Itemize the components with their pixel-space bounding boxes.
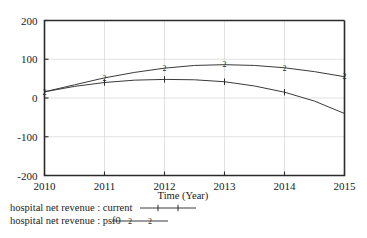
x-tick-label-0: 2010 (34, 180, 57, 192)
data-point-marker: 2 (103, 74, 107, 83)
y-tick-label-1: 100 (21, 53, 38, 65)
data-point-marker: 2 (43, 88, 47, 97)
legend-label-1: hospital net revenue : current (10, 202, 133, 213)
data-point-marker: 2 (163, 64, 167, 73)
x-axis-title: Time (Year) (158, 190, 209, 202)
x-tick-label-1: 2011 (94, 180, 116, 192)
legend-label-2: hospital net revenue : psf0 (10, 215, 121, 226)
chart-container: 2001000-100-200 201020112012201320142015… (0, 0, 367, 238)
x-tick-label-3: 2013 (214, 180, 237, 192)
x-tick-label-4: 2014 (274, 180, 297, 192)
y-tick-label-0: 200 (21, 15, 38, 27)
data-point-marker: 2 (223, 60, 227, 69)
y-tick-label-2: 0 (32, 92, 38, 104)
data-point-marker: 2 (343, 72, 347, 81)
x-tick-label-5: 2015 (334, 180, 357, 192)
legend-marker-2: 2 (128, 217, 132, 226)
y-tick-label-3: -100 (17, 131, 38, 143)
legend-marker-2: 2 (148, 217, 152, 226)
data-point-marker: 2 (283, 64, 287, 73)
chart-svg: 2001000-100-200 201020112012201320142015… (0, 0, 367, 238)
